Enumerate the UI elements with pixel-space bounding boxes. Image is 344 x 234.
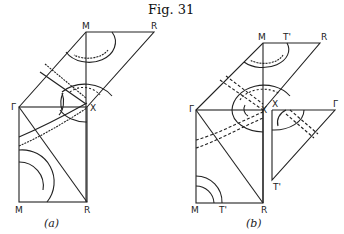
caption-b: (b) xyxy=(246,217,262,230)
label-M-top-b: M xyxy=(258,32,266,42)
panel-a-brillouin-zone xyxy=(19,32,154,202)
label-X-a: X xyxy=(90,103,96,113)
label-T-top-b: T' xyxy=(282,32,291,42)
panel-b-brillouin-zone xyxy=(196,43,335,203)
label-R-top-a: R xyxy=(151,21,157,31)
label-R-bottom-a: R xyxy=(84,205,90,215)
label-M-bottom-b: M xyxy=(191,205,199,215)
label-X-b: X xyxy=(261,105,267,115)
label-R-bottom-b: R xyxy=(261,205,267,215)
label-T-bottom-b: T' xyxy=(218,205,227,215)
label-R-top-b: R xyxy=(321,32,327,42)
label-X-right-b: X xyxy=(272,99,278,109)
label-M-top-a: M xyxy=(82,21,90,31)
label-M-bottom-a: M xyxy=(15,205,23,215)
caption-a: (a) xyxy=(44,217,59,230)
figure-diagram: M R Γ X M R (a) M T' R Γ X M T' R X Γ T'… xyxy=(0,0,344,234)
label-Gamma-right-b: Γ xyxy=(333,99,338,109)
label-T-right-b: T' xyxy=(272,182,281,192)
label-Gamma-a: Γ xyxy=(11,102,16,112)
label-Gamma-b: Γ xyxy=(189,104,194,114)
